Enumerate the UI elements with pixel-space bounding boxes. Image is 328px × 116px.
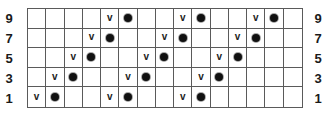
grid-cell: [229, 9, 247, 29]
grid-cell: [265, 68, 283, 88]
v-mark: v: [107, 92, 113, 102]
v-mark: v: [125, 72, 131, 82]
row-label: 5: [2, 51, 16, 66]
grid-cell: [119, 48, 137, 68]
dot-icon: [215, 73, 223, 81]
dot-icon: [51, 93, 59, 101]
grid-cell: [229, 48, 247, 68]
row-label: 7: [311, 31, 325, 46]
grid-cell: [174, 48, 192, 68]
grid-cell: [174, 29, 192, 49]
grid-cell: [28, 68, 46, 88]
grid-cell: [65, 29, 83, 49]
grid-cell: [284, 68, 302, 88]
v-mark: v: [217, 52, 223, 62]
grid-cell: [28, 9, 46, 29]
grid-cell: [265, 9, 283, 29]
dot-icon: [160, 53, 168, 61]
grid-cell: v: [46, 68, 64, 88]
grid-cell: v: [229, 29, 247, 49]
grid-cell: [156, 87, 174, 107]
grid-cell: [28, 29, 46, 49]
grid-cell: [192, 29, 210, 49]
v-mark: v: [180, 13, 186, 23]
v-mark: v: [52, 72, 58, 82]
row-label: 3: [311, 71, 325, 86]
grid-cell: v: [101, 9, 119, 29]
grid-cell: [46, 29, 64, 49]
grid-cell: [101, 48, 119, 68]
dot-icon: [197, 14, 205, 22]
grid-cell: v: [28, 87, 46, 107]
grid-cell: [284, 9, 302, 29]
dot-icon: [234, 53, 242, 61]
grid-cell: [247, 68, 265, 88]
grid-cell: [174, 68, 192, 88]
dot-icon: [106, 34, 114, 42]
dot-icon: [124, 14, 132, 22]
grid-cell: [83, 48, 101, 68]
grid-cell: [119, 9, 137, 29]
v-mark: v: [143, 52, 149, 62]
v-mark: v: [34, 92, 40, 102]
grid-cell: [229, 68, 247, 88]
row-label: 3: [2, 71, 16, 86]
grid-cell: [247, 87, 265, 107]
grid-cell: [156, 9, 174, 29]
grid-cell: [192, 87, 210, 107]
grid-cell: [83, 87, 101, 107]
grid-cell: v: [192, 68, 210, 88]
grid-cell: v: [119, 68, 137, 88]
grid-cell: [119, 29, 137, 49]
v-mark: v: [70, 52, 76, 62]
dot-icon: [69, 73, 77, 81]
grid-cell: [265, 29, 283, 49]
grid-cell: [265, 87, 283, 107]
grid-cell: [101, 68, 119, 88]
v-mark: v: [253, 13, 259, 23]
grid-cell: [284, 48, 302, 68]
grid-cell: [138, 9, 156, 29]
grid-cell: v: [83, 29, 101, 49]
grid-cell: [65, 9, 83, 29]
v-mark: v: [89, 32, 95, 42]
grid-cell: [83, 9, 101, 29]
v-mark: v: [198, 72, 204, 82]
grid-cell: [46, 48, 64, 68]
grid-cell: v: [247, 9, 265, 29]
grid-cell: [211, 87, 229, 107]
dot-icon: [270, 14, 278, 22]
grid-cell: [156, 48, 174, 68]
grid-cell: [247, 29, 265, 49]
grid-cell: [65, 68, 83, 88]
v-mark: v: [162, 32, 168, 42]
dot-icon: [124, 93, 132, 101]
grid-cell: [284, 87, 302, 107]
grid-cell: [138, 68, 156, 88]
v-mark: v: [180, 92, 186, 102]
grid-cell: v: [156, 29, 174, 49]
row-label: 1: [311, 91, 325, 106]
grid-cell: [138, 29, 156, 49]
dot-icon: [252, 34, 260, 42]
grid-cell: [28, 48, 46, 68]
row-label: 9: [2, 11, 16, 26]
grid-cell: v: [65, 48, 83, 68]
dot-icon: [87, 53, 95, 61]
grid-cell: v: [101, 87, 119, 107]
grid-cell: [138, 87, 156, 107]
dot-icon: [142, 73, 150, 81]
row-label: 9: [311, 11, 325, 26]
grid-cell: [211, 68, 229, 88]
grid-cell: [156, 68, 174, 88]
grid-cell: [284, 29, 302, 49]
grid-cell: [192, 9, 210, 29]
row-label: 5: [311, 51, 325, 66]
grid-cell: v: [211, 48, 229, 68]
row-label: 1: [2, 91, 16, 106]
grid-cell: [46, 87, 64, 107]
v-mark: v: [235, 32, 241, 42]
grid-cell: [83, 68, 101, 88]
row-label: 7: [2, 31, 16, 46]
grid-cell: [265, 48, 283, 68]
